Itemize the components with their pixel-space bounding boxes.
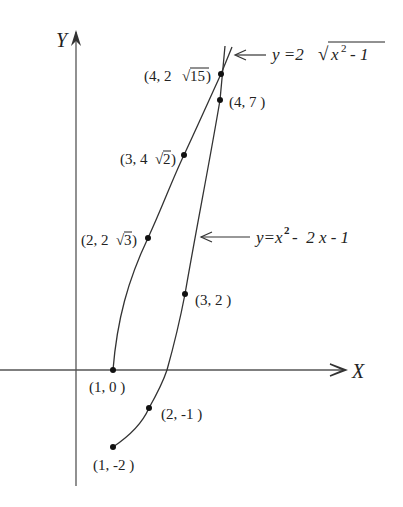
- label-point-1-0: (1, 0 ): [89, 379, 125, 396]
- label-point-4-2root15: (4, 2 √ 15 ): [144, 68, 211, 85]
- svg-text:x: x: [330, 45, 339, 64]
- point-2-2root3: [145, 235, 151, 241]
- point-3-2: [182, 291, 188, 297]
- label-point-3-4root2: (3, 4 √ 2 ): [120, 151, 176, 168]
- label-point-2-neg1: (2, -1 ): [161, 406, 202, 423]
- svg-text:(4, 2: (4, 2: [144, 68, 172, 85]
- point-1-neg2: [110, 444, 116, 450]
- curve-upper: [113, 47, 232, 370]
- svg-text:): ): [132, 232, 137, 249]
- points: [110, 71, 224, 450]
- svg-text:15: 15: [190, 68, 205, 84]
- x-axis: [0, 364, 346, 376]
- point-2-neg1: [146, 405, 152, 411]
- point-4-2root15: [218, 71, 224, 77]
- svg-text:y=x: y=x: [254, 228, 283, 247]
- svg-text:3: 3: [124, 232, 132, 248]
- point-4-7: [217, 97, 223, 103]
- diagram-canvas: Y X (4, 2 √ 15 ) (4, 7 ) (3, 4 √ 2 ): [0, 0, 403, 507]
- point-3-4root2: [181, 152, 187, 158]
- annotation-upper-curve: y =2 √ x 2 - 1: [235, 42, 385, 64]
- annotation-lower-curve: y=x 2 - 2 x - 1: [201, 224, 349, 247]
- svg-text:(2, 2: (2, 2: [81, 232, 109, 249]
- x-axis-label: X: [351, 360, 365, 382]
- svg-text:): ): [206, 68, 211, 85]
- y-axis-label: Y: [56, 29, 69, 51]
- svg-text:- 2 x - 1: - 2 x - 1: [292, 228, 349, 247]
- svg-text:2: 2: [284, 224, 290, 236]
- svg-text:y =2: y =2: [270, 45, 304, 64]
- label-point-4-7: (4, 7 ): [229, 94, 265, 111]
- svg-text:√: √: [318, 43, 329, 64]
- svg-text:2: 2: [341, 42, 347, 54]
- label-point-1-neg2: (1, -2 ): [93, 457, 134, 474]
- svg-text:): ): [171, 151, 176, 168]
- svg-text:(3, 4: (3, 4: [120, 151, 148, 168]
- label-point-2-2root3: (2, 2 √ 3 ): [81, 232, 137, 249]
- label-point-3-2: (3, 2 ): [195, 292, 231, 309]
- point-1-0: [110, 367, 116, 373]
- svg-text:2: 2: [163, 151, 171, 167]
- svg-text:- 1: - 1: [350, 45, 368, 64]
- y-axis: [71, 30, 81, 486]
